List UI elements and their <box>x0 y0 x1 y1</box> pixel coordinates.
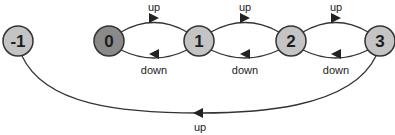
state-diagram: up down up down up d <box>0 0 395 135</box>
edge-label: up <box>194 121 206 133</box>
edge-label: down <box>232 64 258 76</box>
node-neg1: -1 <box>3 26 33 56</box>
edge-path <box>121 23 187 33</box>
arrow-left-icon <box>193 108 203 118</box>
edge-path <box>211 23 279 33</box>
edge-0-to-1: up <box>121 1 187 32</box>
node-3: 3 <box>365 26 395 56</box>
edge-1-to-2: up <box>211 1 279 32</box>
node-label: 2 <box>286 32 295 51</box>
node-1: 1 <box>184 26 214 56</box>
edge-label: up <box>148 1 160 13</box>
node-2: 2 <box>276 26 306 56</box>
edge-2-to-3: up <box>303 1 368 32</box>
arrow-right-icon <box>331 13 341 23</box>
node-label: 3 <box>375 32 384 51</box>
edge-label: up <box>239 1 251 13</box>
edge-1-to-0: down <box>121 49 187 76</box>
node-label: 1 <box>194 32 203 51</box>
edge-path <box>303 23 368 33</box>
edge-label: down <box>323 64 349 76</box>
arrow-right-icon <box>240 13 250 23</box>
node-label: 0 <box>104 32 113 51</box>
node-label: -1 <box>10 32 25 51</box>
edge-3-to-2: down <box>303 49 368 76</box>
node-0: 0 <box>94 26 124 56</box>
edge-label: up <box>330 1 342 13</box>
diagram-canvas: up down up down up d <box>0 0 395 135</box>
edge-label: down <box>141 64 167 76</box>
arrow-right-icon <box>149 13 159 23</box>
edge-2-to-1: down <box>211 49 279 76</box>
